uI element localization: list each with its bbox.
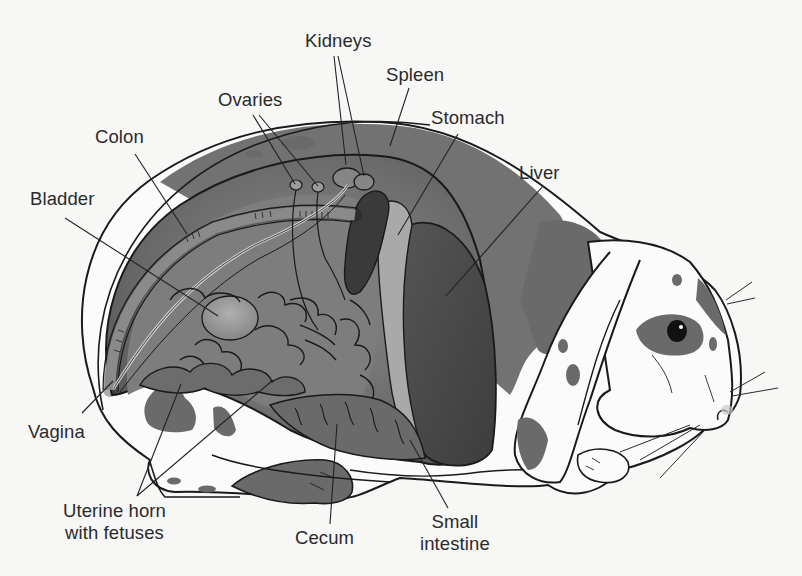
label-cecum: Cecum xyxy=(295,527,354,549)
label-stomach: Stomach xyxy=(431,107,505,129)
bladder-organ xyxy=(202,296,258,340)
label-kidneys: Kidneys xyxy=(305,30,372,52)
label-uterine-horn: Uterine horn with fetuses xyxy=(63,500,166,544)
label-colon: Colon xyxy=(95,126,144,148)
label-liver: Liver xyxy=(519,162,560,184)
label-spleen: Spleen xyxy=(386,64,444,86)
rabbit-anatomy-diagram: Kidneys Spleen Ovaries Stomach Colon Liv… xyxy=(0,0,802,576)
label-vagina: Vagina xyxy=(28,421,85,443)
label-bladder: Bladder xyxy=(30,188,94,210)
label-small-intestine: Small intestine xyxy=(420,511,490,555)
rabbit-illustration xyxy=(0,0,802,576)
label-ovaries: Ovaries xyxy=(218,89,282,111)
ovary-organ xyxy=(290,180,302,190)
